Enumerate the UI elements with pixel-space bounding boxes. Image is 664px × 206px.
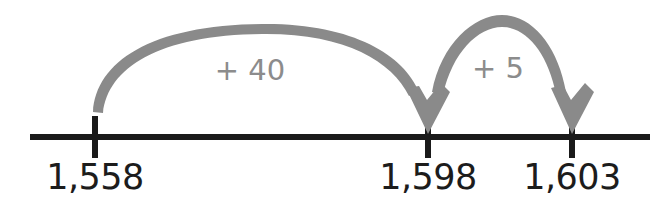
tick-label-1598: 1,598	[379, 160, 477, 195]
tick-label-1603: 1,603	[523, 160, 621, 195]
jump-label-plus-40: + 40	[215, 56, 285, 85]
arrowhead-icon-1603	[551, 83, 594, 134]
tick-label-1558: 1,558	[46, 160, 144, 195]
jump-label-plus-5: + 5	[472, 54, 524, 83]
number-line-figure: + 40 + 5 1,558 1,598 1,603	[0, 0, 664, 206]
